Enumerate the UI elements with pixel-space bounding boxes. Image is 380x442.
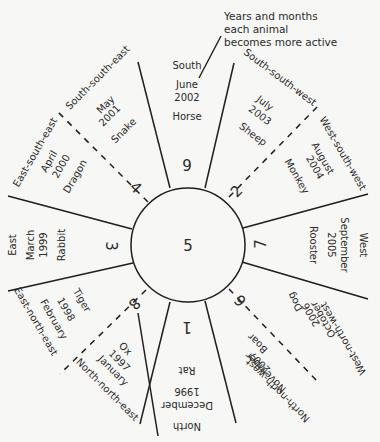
animal-label: Dog (285, 290, 305, 313)
direction-label: South (172, 60, 201, 71)
number-upper-left: 4 (126, 178, 145, 197)
sector-west-north-west: West-north-west October 2006 Dog (285, 290, 368, 377)
compass-diagram: Years and months each animal becomes mor… (0, 0, 380, 442)
direction-label: East (7, 234, 18, 256)
direction-label: South-south-west (242, 46, 319, 108)
month-label: September (339, 217, 350, 273)
number-right: 7 (252, 239, 270, 249)
number-top: 9 (182, 157, 192, 175)
sector-east-north-east: East-north-east February 1998 Tiger (12, 285, 94, 357)
animal-label: Snake (109, 116, 138, 145)
sector-east-south-east: East-south-east April 2000 Dragon (11, 116, 89, 195)
year-label: 1999 (38, 232, 49, 257)
direction-label: South-south-east (63, 43, 131, 111)
sector-south-south-west: South-south-west July 2003 Sheep (237, 46, 318, 148)
center-number: 5 (183, 237, 193, 255)
sector-north-north-east: North-north-east January 1997 Ox (74, 340, 141, 423)
sector-north: North December 1996 Rat (160, 365, 213, 432)
number-left: 3 (102, 241, 120, 251)
number-upper-right: 2 (227, 182, 246, 201)
number-lower-left: 8 (125, 294, 144, 313)
annotation-line-2: each animal (224, 23, 288, 35)
annotation-line-3: becomes more active (224, 36, 337, 48)
animal-label: Boar (245, 331, 270, 356)
annotation-line-1: Years and months (223, 10, 318, 22)
sector-east: East March 1999 Rabbit (7, 229, 67, 261)
direction-label: North (173, 421, 201, 432)
direction-label: West (358, 233, 369, 258)
animal-label: Rabbit (56, 229, 67, 261)
month-label: December (160, 400, 213, 411)
month-label: June (175, 79, 198, 90)
annotation-pointer-line (199, 36, 221, 78)
year-label: 1996 (174, 386, 199, 397)
sector-west: West September 2005 Rooster (308, 217, 369, 273)
sector-north-north-west: North-north-west November 2007 Boar (243, 331, 312, 425)
animal-label: Rat (179, 365, 196, 376)
direction-label: West-north-west (318, 300, 369, 377)
sector-south: South June 2002 Horse (172, 60, 201, 122)
animal-label: Rooster (308, 226, 319, 265)
animal-label: Horse (172, 111, 201, 122)
year-label: 2002 (174, 92, 199, 103)
year-label: 2005 (326, 232, 337, 257)
sector-west-south-west: West-south-west August 2004 Monkey (283, 114, 369, 195)
sector-south-south-east: South-south-east May 2001 Snake (63, 43, 138, 145)
month-label: March (25, 230, 36, 260)
number-bottom: 1 (182, 318, 192, 336)
